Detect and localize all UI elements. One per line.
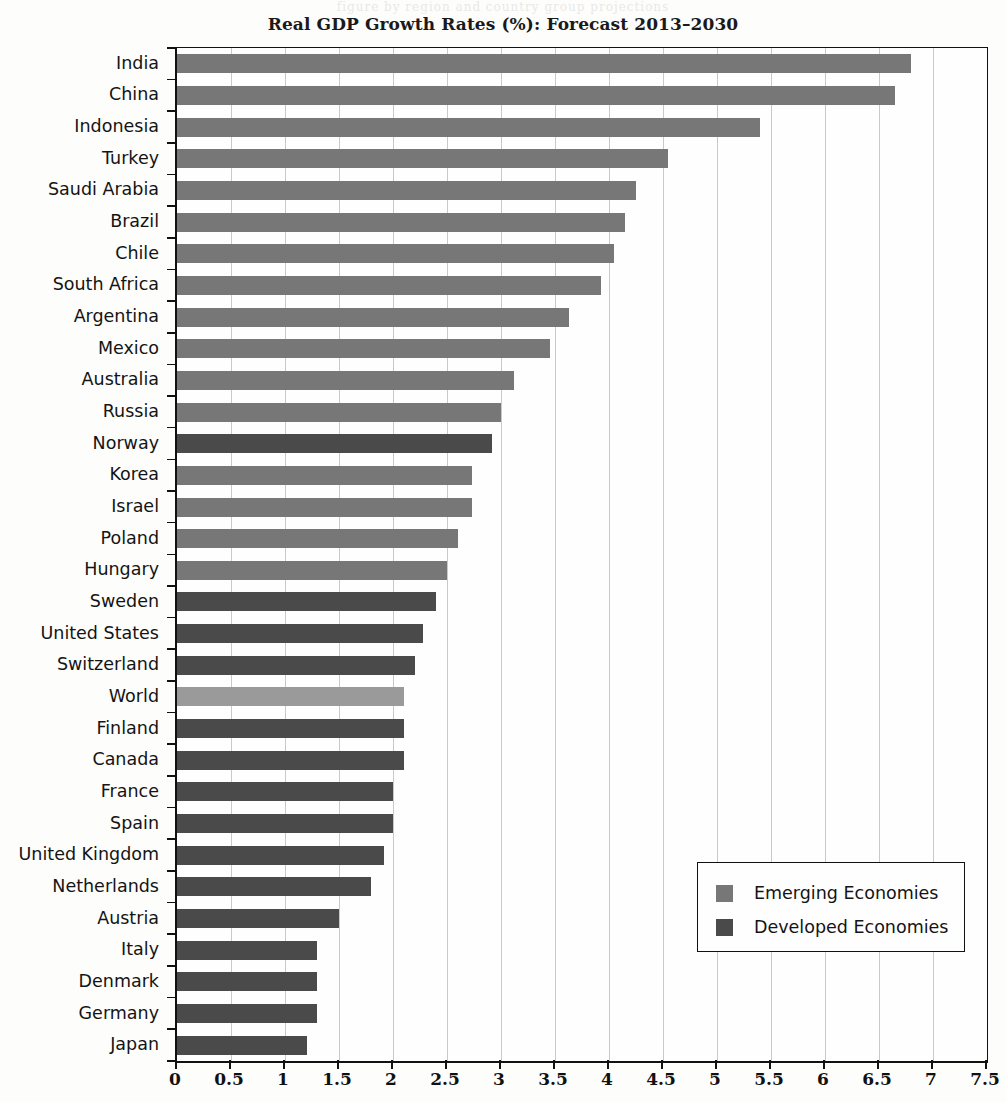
bar-indonesia[interactable] — [177, 118, 760, 137]
x-axis-labels: 00.511.522.533.544.555.566.577.5 — [0, 1069, 1006, 1095]
x-axis-tick — [391, 1060, 393, 1069]
bar-united-kingdom[interactable] — [177, 846, 384, 865]
bar-row — [177, 175, 987, 207]
legend-swatch-emerging — [716, 885, 733, 902]
x-axis-tick — [715, 1060, 717, 1069]
bar-row — [177, 1029, 987, 1061]
bar-row — [177, 460, 987, 492]
y-axis-label-mexico: Mexico — [0, 332, 168, 364]
legend-label-developed: Developed Economies — [754, 917, 948, 937]
bar-denmark[interactable] — [177, 972, 317, 991]
y-axis-label-australia: Australia — [0, 364, 168, 396]
x-axis-tick — [661, 1060, 663, 1069]
y-axis-label-poland: Poland — [0, 522, 168, 554]
y-axis-label-saudi-arabia: Saudi Arabia — [0, 174, 168, 206]
bar-row — [177, 396, 987, 428]
bar-row — [177, 523, 987, 555]
bar-row — [177, 776, 987, 808]
bar-south-africa[interactable] — [177, 276, 601, 295]
bar-row — [177, 618, 987, 650]
bar-china[interactable] — [177, 86, 895, 105]
bar-saudi-arabia[interactable] — [177, 181, 636, 200]
bar-row — [177, 301, 987, 333]
bar-row — [177, 649, 987, 681]
x-axis-label-4: 4 — [601, 1069, 613, 1089]
x-axis-label-5.5: 5.5 — [754, 1069, 784, 1089]
bar-spain[interactable] — [177, 814, 393, 833]
bar-poland[interactable] — [177, 529, 458, 548]
y-axis-label-hungary: Hungary — [0, 554, 168, 586]
bar-hungary[interactable] — [177, 561, 447, 580]
y-axis-label-china: China — [0, 79, 168, 111]
y-axis-label-chile: Chile — [0, 237, 168, 269]
bar-germany[interactable] — [177, 1004, 317, 1023]
x-axis-tick — [499, 1060, 501, 1069]
y-axis-label-canada: Canada — [0, 743, 168, 775]
x-axis-tick — [931, 1060, 933, 1069]
bar-argentina[interactable] — [177, 308, 569, 327]
bar-chile[interactable] — [177, 244, 614, 263]
y-axis-label-world: World — [0, 680, 168, 712]
bar-mexico[interactable] — [177, 339, 550, 358]
x-axis-label-6: 6 — [817, 1069, 829, 1089]
bar-row — [177, 365, 987, 397]
y-axis-label-switzerland: Switzerland — [0, 648, 168, 680]
bar-india[interactable] — [177, 54, 911, 73]
bar-japan[interactable] — [177, 1036, 307, 1055]
bar-row — [177, 744, 987, 776]
y-axis-label-argentina: Argentina — [0, 300, 168, 332]
legend-item-emerging[interactable]: Emerging Economies — [716, 876, 964, 910]
y-axis-label-spain: Spain — [0, 807, 168, 839]
bar-world[interactable] — [177, 687, 404, 706]
y-axis-label-sweden: Sweden — [0, 585, 168, 617]
bar-korea[interactable] — [177, 466, 472, 485]
bar-row — [177, 998, 987, 1030]
x-axis-label-0.5: 0.5 — [214, 1069, 244, 1089]
bar-switzerland[interactable] — [177, 656, 415, 675]
bar-row — [177, 555, 987, 587]
legend-label-emerging: Emerging Economies — [754, 883, 938, 903]
y-axis-label-brazil: Brazil — [0, 205, 168, 237]
bar-united-states[interactable] — [177, 624, 423, 643]
legend-item-developed[interactable]: Developed Economies — [716, 910, 964, 944]
bar-sweden[interactable] — [177, 592, 436, 611]
x-axis-label-3.5: 3.5 — [538, 1069, 568, 1089]
bar-row — [177, 713, 987, 745]
y-axis-label-south-africa: South Africa — [0, 269, 168, 301]
x-axis-label-6.5: 6.5 — [862, 1069, 892, 1089]
x-axis-tick — [877, 1060, 879, 1069]
chart-title: Real GDP Growth Rates (%): Forecast 2013… — [0, 14, 1006, 34]
y-axis-label-korea: Korea — [0, 459, 168, 491]
x-axis-tick — [337, 1060, 339, 1069]
bar-israel[interactable] — [177, 498, 472, 517]
bar-austria[interactable] — [177, 909, 339, 928]
y-axis-label-indonesia: Indonesia — [0, 110, 168, 142]
y-axis-label-united-kingdom: United Kingdom — [0, 838, 168, 870]
bar-brazil[interactable] — [177, 213, 625, 232]
bar-australia[interactable] — [177, 371, 514, 390]
bar-row — [177, 206, 987, 238]
bar-norway[interactable] — [177, 434, 492, 453]
y-axis-label-denmark: Denmark — [0, 965, 168, 997]
bar-finland[interactable] — [177, 719, 404, 738]
bar-france[interactable] — [177, 782, 393, 801]
x-axis-tick — [553, 1060, 555, 1069]
bar-row — [177, 111, 987, 143]
y-axis-label-norway: Norway — [0, 427, 168, 459]
x-axis-tick — [823, 1060, 825, 1069]
y-axis-label-turkey: Turkey — [0, 142, 168, 174]
y-axis-label-united-states: United States — [0, 617, 168, 649]
y-axis-label-netherlands: Netherlands — [0, 870, 168, 902]
bar-italy[interactable] — [177, 941, 317, 960]
bar-canada[interactable] — [177, 751, 404, 770]
y-axis-label-france: France — [0, 775, 168, 807]
bar-row — [177, 48, 987, 80]
x-axis-tick — [769, 1060, 771, 1069]
bar-netherlands[interactable] — [177, 877, 371, 896]
y-axis-label-austria: Austria — [0, 902, 168, 934]
bar-russia[interactable] — [177, 403, 501, 422]
y-axis-label-italy: Italy — [0, 933, 168, 965]
x-axis-label-0: 0 — [169, 1069, 181, 1089]
bar-row — [177, 80, 987, 112]
bar-turkey[interactable] — [177, 149, 668, 168]
